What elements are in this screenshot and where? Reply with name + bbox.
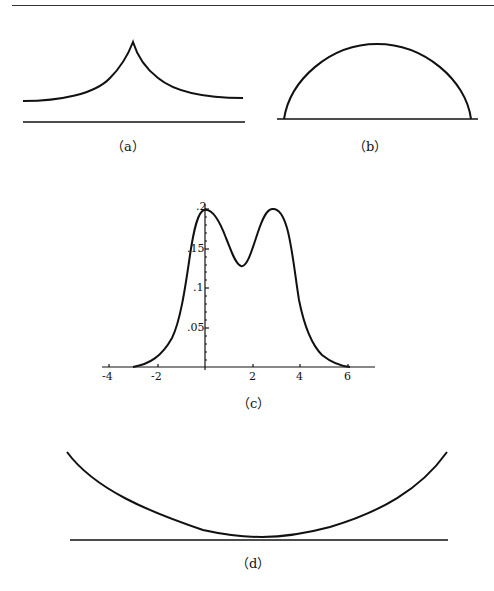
- y-tick-label: .15: [187, 242, 205, 255]
- caption-c: （c）: [237, 393, 270, 412]
- panel-a: [23, 42, 245, 122]
- x-tick-label: -2: [151, 370, 162, 383]
- figure-canvas: [0, 0, 494, 591]
- panel-d-curve: [67, 452, 447, 537]
- panel-b: [277, 44, 478, 119]
- caption-a: （a）: [111, 136, 145, 155]
- panel-a-curve: [23, 42, 243, 101]
- y-tick-label: .1: [193, 281, 204, 294]
- panel-d: [67, 452, 448, 540]
- x-tick-label: 2: [249, 370, 256, 383]
- caption-d: （d）: [236, 553, 270, 572]
- y-tick-label: .2: [196, 200, 207, 213]
- panel-c-density-curve: [133, 209, 350, 367]
- panel-c-axes: [102, 204, 375, 370]
- x-tick-label: -4: [102, 370, 113, 383]
- caption-b: （b）: [353, 136, 387, 155]
- y-tick-label: .05: [187, 321, 205, 334]
- x-tick-label: 4: [296, 370, 303, 383]
- panel-b-arc: [284, 44, 471, 119]
- x-tick-label: 6: [344, 370, 351, 383]
